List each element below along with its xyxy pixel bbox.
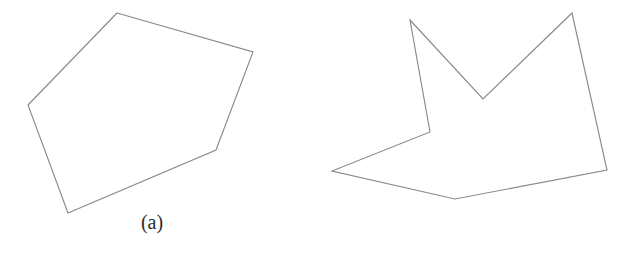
figure-container: (a) (b) <box>0 0 625 257</box>
panel-b: (b) <box>312 0 625 257</box>
polygon-b-svg <box>0 0 625 257</box>
concave-polygon-b <box>332 13 607 199</box>
